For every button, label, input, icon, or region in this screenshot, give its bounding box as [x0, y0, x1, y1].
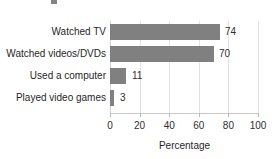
x-tick-label: 0 — [107, 120, 113, 132]
x-axis-line — [110, 113, 259, 114]
category-axis-labels: Watched TV Watched videos/DVDs Used a co… — [0, 21, 106, 113]
category-label: Watched videos/DVDs — [0, 46, 106, 62]
x-tick-label: 20 — [134, 120, 145, 132]
x-tick-mark — [140, 113, 141, 117]
x-tick-mark — [228, 113, 229, 117]
bar — [110, 24, 220, 40]
x-tick-mark — [258, 113, 259, 117]
bar-value-label: 3 — [120, 91, 126, 105]
bar — [110, 90, 114, 106]
x-tick-label: 80 — [223, 120, 234, 132]
bar — [110, 68, 126, 84]
clipped-title-fragment — [51, 0, 57, 4]
category-label: Played video games — [0, 90, 106, 106]
x-axis-title: Percentage — [110, 139, 259, 152]
x-tick-label: 40 — [164, 120, 175, 132]
x-tick-label: 60 — [193, 120, 204, 132]
bar-value-label: 11 — [132, 69, 142, 83]
bar-series: 74 70 11 3 — [110, 21, 280, 113]
bar-value-label: 70 — [219, 47, 230, 61]
x-tick-mark — [169, 113, 170, 117]
category-label: Used a computer — [0, 68, 106, 84]
bar — [110, 46, 214, 62]
x-tick-mark — [110, 113, 111, 117]
bar-value-label: 74 — [225, 25, 236, 39]
x-tick-label: 100 — [250, 120, 267, 132]
category-label: Watched TV — [0, 24, 106, 40]
bar-chart: Watched TV Watched videos/DVDs Used a co… — [0, 0, 280, 159]
x-tick-mark — [199, 113, 200, 117]
